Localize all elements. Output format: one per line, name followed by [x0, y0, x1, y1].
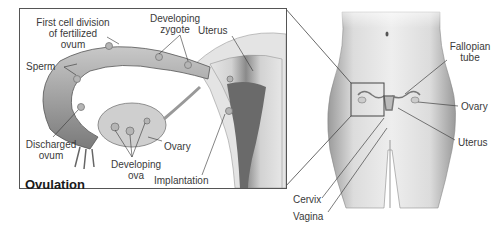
- label-line: ovum: [23, 39, 123, 50]
- label-vagina: Vagina: [293, 211, 323, 222]
- label-developing-zygote: Developing zygote: [145, 13, 205, 35]
- ovulation-inset-panel: First cell division of fertilized ovum D…: [19, 8, 287, 189]
- label-ovary: Ovary: [164, 141, 191, 152]
- label-line: of fertilized: [23, 28, 123, 39]
- label-fallopian-tube: Fallopian tube: [445, 41, 495, 63]
- label-line: tube: [445, 52, 495, 63]
- label-uterus: Uterus: [198, 25, 227, 36]
- ovulation-title: Ovulation: [25, 177, 85, 192]
- label-discharged-ovum: Discharged ovum: [20, 139, 82, 161]
- ovary-shape: [98, 103, 166, 147]
- label-line: Developing: [145, 13, 205, 24]
- label-implantation: Implantation: [154, 175, 208, 186]
- label-line: ovum: [20, 150, 82, 161]
- label-line: First cell division: [23, 17, 123, 28]
- label-body-uterus: Uterus: [458, 137, 487, 148]
- label-line: Developing: [106, 159, 166, 170]
- label-sperm: Sperm: [26, 61, 55, 72]
- label-line: Fallopian: [445, 41, 495, 52]
- label-line: zygote: [145, 24, 205, 35]
- label-first-cell-division: First cell division of fertilized ovum: [23, 17, 123, 50]
- label-cervix: Cervix: [293, 194, 321, 205]
- label-line: Discharged: [20, 139, 82, 150]
- label-body-ovary: Ovary: [461, 101, 488, 112]
